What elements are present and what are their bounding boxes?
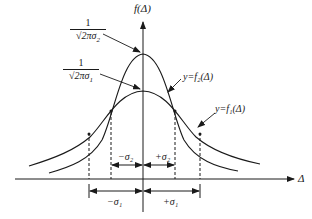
dot-f2-plus bbox=[174, 110, 177, 113]
f2-peak-denominator: √2πσ2 bbox=[70, 29, 106, 44]
f1-peak-numerator: 1 bbox=[63, 58, 99, 69]
curve-label-f1: y=f₁(Δ) bbox=[215, 104, 245, 114]
f2-peak-fraction: 1 √2πσ2 bbox=[70, 18, 106, 44]
normal-distribution-diagram bbox=[0, 0, 312, 219]
label-plus-sigma1: +σ₁ bbox=[163, 197, 178, 207]
label-minus-sigma1: −σ₁ bbox=[107, 197, 122, 207]
leader-arrow-f2-peak bbox=[103, 34, 140, 52]
y-axis-label: f(Δ) bbox=[134, 3, 151, 14]
leader-arrow-f2-label bbox=[168, 79, 181, 92]
f1-peak-denominator: √2πσ1 bbox=[63, 69, 99, 84]
x-axis-label: Δ bbox=[298, 173, 304, 184]
dot-f1-plus bbox=[199, 133, 202, 136]
curve-label-f2: y=f₂(Δ) bbox=[183, 72, 213, 82]
dot-f1-minus bbox=[88, 133, 91, 136]
leader-arrow-f1-label bbox=[198, 113, 215, 127]
f1-peak-fraction: 1 √2πσ1 bbox=[63, 58, 99, 84]
label-minus-sigma2: −σ₂ bbox=[118, 152, 133, 162]
label-plus-sigma2: +σ₂ bbox=[155, 152, 170, 162]
f2-peak-numerator: 1 bbox=[70, 18, 106, 29]
dot-f2-minus bbox=[110, 110, 113, 113]
